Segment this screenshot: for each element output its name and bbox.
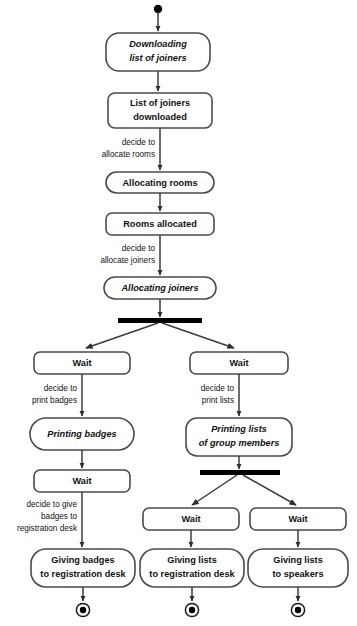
node-wait-center-low[interactable]: Wait: [143, 508, 239, 530]
activity-diagram-canvas: Downloading list of joiners List of join…: [0, 0, 357, 626]
guard-allocate-rooms-line2: allocate rooms: [102, 150, 155, 159]
node-downloading-list-of-joiners[interactable]: Downloading list of joiners: [106, 33, 210, 71]
activity-diagram-svg: Downloading list of joiners List of join…: [0, 0, 357, 626]
fork-bar-lower: [200, 470, 280, 475]
guard-allocate-rooms: decide to allocate rooms: [102, 138, 156, 159]
node-wait-left-mid[interactable]: Wait: [34, 470, 130, 492]
node-label-giving-lists-speakers-line2: to speakers: [272, 569, 323, 579]
node-label-printing-lists-line2: of group members: [199, 438, 280, 448]
guard-print-badges-line2: print badges: [32, 396, 77, 405]
node-giving-lists-to-registration-desk[interactable]: Giving lists to registration desk: [140, 549, 244, 587]
guard-give-badges: decide to give badges to registration de…: [17, 500, 78, 533]
final-node-badges: [76, 603, 89, 616]
initial-node: [154, 5, 162, 13]
guard-allocate-joiners-line2: allocate joiners: [100, 256, 155, 265]
node-giving-badges-to-registration-desk[interactable]: Giving badges to registration desk: [31, 549, 135, 587]
guard-print-lists-line2: print lists: [202, 396, 234, 405]
final-node-lists-registration: [185, 603, 198, 616]
guard-give-badges-line2: badges to: [41, 512, 77, 521]
final-node-lists-speakers: [291, 603, 304, 616]
edge-fork-top-to-wait-left: [86, 323, 158, 348]
node-label-wait-left-mid: Wait: [72, 476, 91, 486]
guard-give-badges-line3: registration desk: [17, 524, 78, 533]
edge-fork-lower-to-wait-center: [192, 475, 237, 505]
node-label-downloaded-line1: List of joiners: [130, 98, 190, 108]
guard-allocate-joiners: decide to allocate joiners: [100, 244, 155, 265]
node-list-of-joiners-downloaded[interactable]: List of joiners downloaded: [108, 93, 212, 128]
node-label-giving-lists-speakers-line1: Giving lists: [273, 555, 323, 565]
node-printing-badges[interactable]: Printing badges: [30, 418, 134, 450]
node-printing-lists-of-group-members[interactable]: Printing lists of group members: [186, 418, 292, 456]
edge-fork-lower-to-wait-right: [243, 475, 296, 505]
node-label-printing-lists-line1: Printing lists: [211, 424, 267, 434]
guard-allocate-rooms-line1: decide to: [122, 138, 156, 147]
fork-bar-top: [118, 318, 202, 323]
node-label-giving-lists-registration-line2: to registration desk: [149, 569, 235, 579]
node-giving-lists-to-speakers[interactable]: Giving lists to speakers: [248, 549, 348, 587]
node-allocating-joiners[interactable]: Allocating joiners: [104, 277, 216, 299]
guard-allocate-joiners-line1: decide to: [122, 244, 156, 253]
edge-fork-top-to-wait-right: [162, 323, 234, 348]
node-label-downloading-line1: Downloading: [129, 39, 187, 49]
node-label-wait-right-top: Wait: [229, 358, 248, 368]
node-label-allocating-rooms: Allocating rooms: [122, 178, 197, 188]
node-allocating-rooms[interactable]: Allocating rooms: [106, 172, 214, 193]
node-wait-right-top[interactable]: Wait: [190, 352, 288, 374]
node-rooms-allocated[interactable]: Rooms allocated: [106, 213, 214, 235]
node-label-wait-right-low: Wait: [288, 514, 307, 524]
node-wait-left-top[interactable]: Wait: [34, 352, 130, 374]
guard-print-lists: decide to print lists: [201, 384, 235, 405]
node-label-giving-badges-line2: to registration desk: [40, 569, 126, 579]
guard-give-badges-line1: decide to give: [26, 500, 77, 509]
node-label-printing-badges: Printing badges: [47, 429, 116, 439]
guard-print-badges-line1: decide to: [44, 384, 78, 393]
node-label-giving-badges-line1: Giving badges: [51, 555, 114, 565]
node-label-wait-left-top: Wait: [72, 358, 91, 368]
guard-print-badges: decide to print badges: [32, 384, 78, 405]
node-label-rooms-allocated: Rooms allocated: [123, 219, 197, 229]
node-label-allocating-joiners: Allocating joiners: [120, 283, 198, 293]
node-wait-right-low[interactable]: Wait: [250, 508, 346, 530]
node-label-downloading-line2: list of joiners: [129, 53, 186, 63]
node-label-giving-lists-registration-line1: Giving lists: [167, 555, 217, 565]
guard-print-lists-line1: decide to: [201, 384, 235, 393]
node-label-wait-center-low: Wait: [181, 514, 200, 524]
node-label-downloaded-line2: downloaded: [133, 112, 187, 122]
